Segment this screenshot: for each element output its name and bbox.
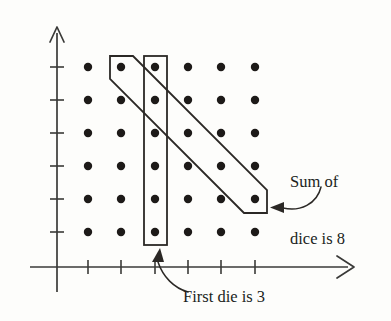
sample-point [151, 96, 159, 104]
sample-point [117, 162, 125, 170]
sample-point [151, 162, 159, 170]
sum-of-dice-label-line2: dice is 8 [290, 230, 345, 249]
sample-point [251, 63, 259, 71]
sample-point [217, 228, 225, 236]
dice-sample-space-figure: Sum of dice is 8 First die is 3 [0, 0, 391, 321]
sample-point [117, 228, 125, 236]
sample-point [217, 162, 225, 170]
sample-point [84, 162, 92, 170]
sample-point [117, 63, 125, 71]
first-die-label: First die is 3 [183, 288, 265, 307]
sample-point [151, 195, 159, 203]
sample-point [251, 162, 259, 170]
sample-point [217, 63, 225, 71]
sample-point [251, 228, 259, 236]
sample-point [151, 228, 159, 236]
sample-point [184, 63, 192, 71]
sample-point [84, 195, 92, 203]
sample-point [251, 129, 259, 137]
sample-point [151, 129, 159, 137]
sample-point [84, 228, 92, 236]
sample-point [217, 195, 225, 203]
sample-point [184, 228, 192, 236]
highlight-first-die-is-3[interactable] [144, 56, 167, 245]
sample-point [184, 96, 192, 104]
sample-point [217, 129, 225, 137]
sample-point [151, 63, 159, 71]
sample-point [217, 96, 225, 104]
sample-point [117, 129, 125, 137]
sample-point [84, 96, 92, 104]
sample-point [184, 162, 192, 170]
sample-point [251, 96, 259, 104]
sample-point [184, 195, 192, 203]
curved-arrow-up-icon [152, 248, 188, 292]
sum-of-dice-label: Sum of dice is 8 [290, 135, 345, 287]
sample-point [117, 195, 125, 203]
sample-space-dots [84, 63, 259, 236]
sample-point [184, 129, 192, 137]
sample-point [251, 195, 259, 203]
sample-point [84, 129, 92, 137]
sample-point [84, 63, 92, 71]
sample-point [117, 96, 125, 104]
sum-of-dice-label-line1: Sum of [290, 173, 345, 192]
